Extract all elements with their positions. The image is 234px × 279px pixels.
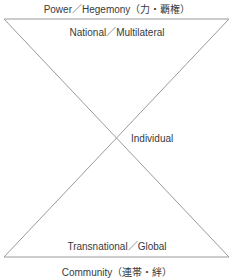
lower-triangle-label: Transnational／Global (0, 238, 234, 253)
bottom-label: Community（連帯・絆） (0, 264, 234, 279)
top-label: Power／Hegemony（力・覇権） (0, 1, 234, 16)
center-label: Individual (131, 133, 173, 144)
upper-triangle-label: National／Multilateral (0, 24, 234, 39)
